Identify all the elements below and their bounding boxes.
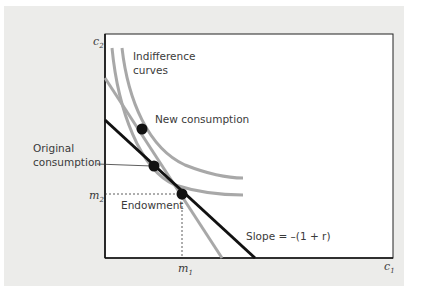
new-consumption-label: New consumption [155, 113, 249, 125]
endowment-point [177, 189, 188, 200]
indifference-label-1: Indifference [133, 50, 195, 62]
original-consumption-label-1: Original [33, 142, 74, 154]
new-consumption-point [137, 124, 148, 135]
original-consumption-label-2: consumption [33, 156, 101, 168]
m2-label: m2 [89, 189, 104, 204]
original-consumption-point [149, 161, 160, 172]
indifference-label-2: curves [133, 64, 168, 76]
y-axis-label: c2 [93, 35, 104, 50]
diagram-canvas: c2 c1 Indifference curves New consumptio… [0, 0, 432, 291]
endowment-label: Endowment [121, 199, 183, 211]
x-axis-label: c1 [384, 260, 395, 275]
m1-label: m1 [178, 262, 193, 277]
slope-label: Slope = –(1 + r) [246, 230, 331, 242]
